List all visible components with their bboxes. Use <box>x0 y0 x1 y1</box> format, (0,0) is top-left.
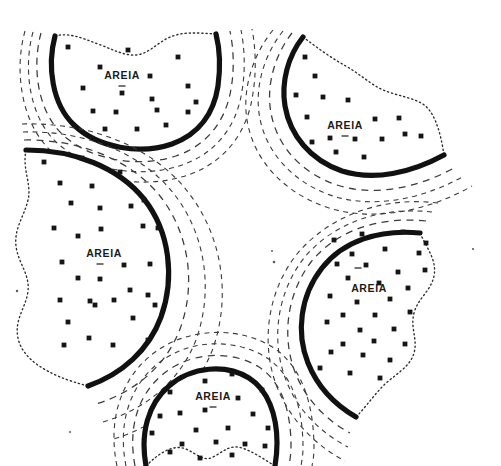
stipple-square <box>168 450 173 455</box>
stipple-square <box>341 313 346 318</box>
stipple-square <box>66 45 71 50</box>
stipple-square <box>111 343 116 348</box>
stipple-square <box>158 414 163 419</box>
stipple-square <box>360 232 365 237</box>
stipple-square <box>87 336 92 341</box>
stipple-square <box>168 390 173 395</box>
noise-speck <box>271 250 273 252</box>
sand-label: AREIA <box>104 69 140 81</box>
stipple-square <box>146 293 151 298</box>
stipple-square <box>406 286 411 291</box>
stipple-square <box>403 132 408 137</box>
stipple-square <box>156 226 161 231</box>
stipple-square <box>313 74 318 79</box>
stipple-square <box>90 184 95 189</box>
stipple-square <box>203 408 208 413</box>
stipple-square <box>266 426 271 431</box>
noise-speck <box>69 431 71 433</box>
stipple-square <box>76 276 81 281</box>
noise-speck <box>472 248 474 250</box>
stipple-square <box>353 137 358 142</box>
stipple-square <box>346 276 351 281</box>
stipple-square <box>341 342 346 347</box>
stipple-square <box>328 136 333 141</box>
sand-map-figure: AREIAAREIAAREIAAREIAAREIA <box>0 0 501 466</box>
stipple-square <box>214 440 219 445</box>
stipple-square <box>388 297 393 302</box>
stipple-square <box>346 98 351 103</box>
stipple-square <box>294 93 299 98</box>
stipple-square <box>135 127 140 132</box>
stipple-square <box>120 91 125 96</box>
stipple-square <box>403 342 408 347</box>
stipple-square <box>194 428 199 433</box>
map-canvas: AREIAAREIAAREIAAREIAAREIA <box>0 0 501 466</box>
stipple-square <box>60 260 65 265</box>
stipple-square <box>318 366 323 371</box>
stipple-square <box>373 117 378 122</box>
stipple-square <box>176 55 181 60</box>
stipple-square <box>186 110 191 115</box>
sand-label: AREIA <box>86 247 122 259</box>
stipple-square <box>142 198 147 203</box>
stipple-square <box>388 358 393 363</box>
stipple-square <box>194 100 199 105</box>
stipple-square <box>141 224 146 229</box>
stipple-square <box>350 252 355 257</box>
stipple-square <box>186 84 191 89</box>
stipple-square <box>236 396 241 401</box>
stipple-square <box>334 150 339 155</box>
stipple-square <box>372 339 377 344</box>
stipple-square <box>150 97 155 102</box>
stipple-square <box>260 388 265 393</box>
stipple-square <box>303 55 308 60</box>
stipple-square <box>378 376 383 381</box>
sand-label: AREIA <box>351 282 387 294</box>
noise-speck <box>16 290 18 292</box>
stipple-square <box>98 65 103 70</box>
stipple-square <box>52 226 57 231</box>
stipple-square <box>396 270 401 275</box>
stipple-square <box>198 456 203 461</box>
stipple-square <box>91 109 96 114</box>
stipple-square <box>380 137 385 142</box>
stipple-square <box>146 338 151 343</box>
stipple-square <box>128 288 133 293</box>
stipple-square <box>42 160 47 165</box>
stipple-square <box>383 247 388 252</box>
stipple-square <box>76 234 81 239</box>
stipple-square <box>373 313 378 318</box>
sand-label: AREIA <box>327 119 363 131</box>
stipple-square <box>321 95 326 100</box>
stipple-square <box>58 181 63 186</box>
stipple-square <box>150 431 155 436</box>
stipple-square <box>69 201 74 206</box>
stipple-square <box>148 74 153 79</box>
stipple-square <box>355 300 360 305</box>
stipple-square <box>362 155 367 160</box>
stipple-square <box>58 298 63 303</box>
stipple-square <box>148 262 153 267</box>
stipple-square <box>325 320 330 325</box>
stipple-square <box>392 327 397 332</box>
stipple-square <box>332 238 337 243</box>
stipple-square <box>178 411 183 416</box>
stipple-square <box>153 303 158 308</box>
stipple-square <box>243 442 248 447</box>
stipple-square <box>328 294 333 299</box>
stipple-square <box>251 412 256 417</box>
stipple-square <box>131 316 136 321</box>
stipple-square <box>263 444 268 449</box>
stipple-square <box>417 251 422 256</box>
stipple-square <box>98 277 103 282</box>
stipple-square <box>81 86 86 91</box>
stipple-square <box>180 442 185 447</box>
stipple-square <box>230 372 235 377</box>
stipple-square <box>114 110 119 115</box>
stipple-square <box>364 263 369 268</box>
stipple-square <box>62 343 67 348</box>
sand-label: AREIA <box>195 390 231 402</box>
stipple-square <box>419 134 424 139</box>
stipple-square <box>98 206 103 211</box>
stipple-square <box>164 123 169 128</box>
